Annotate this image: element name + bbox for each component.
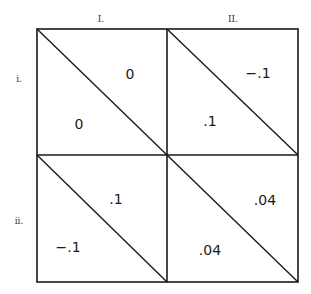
payoff-upper-right: −.1 — [245, 65, 270, 81]
payoff-lower-left: 0 — [75, 116, 84, 132]
row-label-2: ii. — [15, 216, 24, 226]
cell-diagonal — [37, 155, 167, 282]
payoff-lower-left: −.1 — [55, 239, 80, 255]
column-label-2: II. — [228, 14, 238, 24]
payoff-matrix-diagram: I. II. i. ii. 0 0 −.1 .1 .1 −.1 .04 .04 — [0, 0, 311, 294]
payoff-upper-right: .04 — [254, 192, 276, 208]
cell-diagonal — [37, 29, 167, 155]
cell-diagonal — [167, 29, 298, 155]
row-label-1: i. — [16, 74, 22, 84]
cell-diagonal — [167, 155, 298, 282]
payoff-lower-left: .1 — [203, 113, 216, 129]
column-label-1: I. — [98, 14, 105, 24]
payoff-upper-right: .1 — [109, 191, 122, 207]
payoff-lower-left: .04 — [199, 242, 221, 258]
payoff-upper-right: 0 — [126, 66, 135, 82]
